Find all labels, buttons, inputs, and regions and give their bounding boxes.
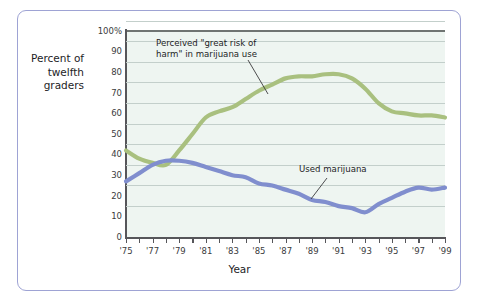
annotation-blue-label: Used marijuana [299, 164, 367, 175]
leader-line-blue [311, 178, 327, 199]
chart-figure: 100%9080706050403020100 '75'77'79'81'83'… [0, 0, 479, 301]
annotation-leader-lines [248, 60, 327, 199]
series-line-used-marijuana [126, 160, 445, 212]
annotation-green-label: Perceived "great risk of harm" in mariju… [156, 38, 257, 59]
series-line-perceived-risk [126, 74, 445, 166]
